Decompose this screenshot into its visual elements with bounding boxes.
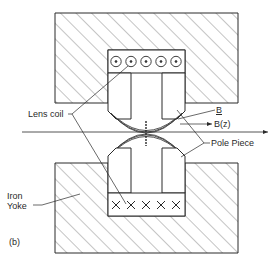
iron-yoke-label-line1: Iron xyxy=(7,191,23,201)
b-vector-label: B xyxy=(216,105,222,115)
pole-piece-label: Pole Piece xyxy=(211,138,254,148)
panel-label: (b) xyxy=(9,237,20,247)
bottom-lens-coil xyxy=(108,193,185,216)
b-z-label: B(z) xyxy=(214,119,231,129)
magnetic-lens-diagram xyxy=(0,0,279,268)
iron-yoke-label-line2: Yoke xyxy=(7,201,27,211)
top-lens-coil xyxy=(108,50,185,73)
top-pole-pieces xyxy=(108,73,185,119)
lens-coil-label: Lens coil xyxy=(28,109,64,119)
bottom-pole-pieces xyxy=(108,148,185,193)
